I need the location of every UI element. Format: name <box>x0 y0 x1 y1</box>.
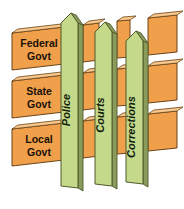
bar-federal-label-line2: Govt <box>27 50 51 62</box>
bar-state-right-face <box>148 63 177 103</box>
picket-corrections-side <box>143 41 148 187</box>
bar-state-label-line1: State <box>26 85 52 97</box>
picket-police-label: Police <box>60 94 72 126</box>
bar-federal-label-line1: Federal <box>20 37 57 49</box>
bar-local-label-line2: Govt <box>27 146 51 158</box>
picket-courts-side <box>112 32 117 189</box>
fence-diagram: Federal Govt State Govt Local Govt Polic… <box>0 0 184 209</box>
bar-local-right-face <box>148 111 177 151</box>
picket-courts-label: Courts <box>94 97 106 132</box>
bar-state-label-line2: Govt <box>27 98 51 110</box>
picket-police-side <box>78 23 83 191</box>
picket-corrections-label: Corrections <box>125 96 137 158</box>
bar-federal-right-face <box>148 15 177 55</box>
bar-label-local: Local Govt <box>25 133 53 158</box>
bar-local-label-line1: Local <box>25 133 53 145</box>
bar-label-state: State Govt <box>26 85 52 110</box>
